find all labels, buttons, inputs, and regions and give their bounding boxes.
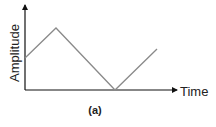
- figure-label: (a): [88, 104, 102, 116]
- y-axis-label: Amplitude: [7, 24, 22, 82]
- x-axis-label: Time: [180, 84, 208, 99]
- triangle-wave-diagram: Time Amplitude (a): [0, 0, 216, 127]
- triangle-waveform: [25, 28, 157, 90]
